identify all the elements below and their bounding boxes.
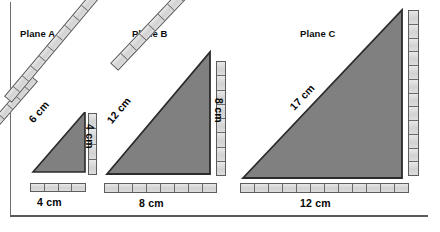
plane-a-height-label: 4 cm bbox=[84, 124, 96, 149]
frame-bottom-border bbox=[10, 215, 428, 217]
plane-c-height-ruler bbox=[408, 10, 419, 176]
plane-a-base-label: 4 cm bbox=[37, 196, 62, 208]
plane-c-triangle bbox=[240, 8, 406, 180]
plane-a-title: Plane A bbox=[20, 28, 55, 39]
plane-b-height-label: 8 cm bbox=[213, 98, 225, 123]
plane-b-base-ruler bbox=[104, 183, 217, 193]
plane-a-base-ruler bbox=[30, 183, 86, 192]
plane-b-hypotenuse-ruler-segments bbox=[4, 0, 115, 103]
plane-b-hypotenuse-ruler bbox=[4, 0, 115, 103]
plane-c-base-label: 12 cm bbox=[300, 197, 331, 209]
diagram-canvas: Plane A 6 cm 4 cm 4 cm Plane B bbox=[0, 0, 440, 232]
plane-a-triangle bbox=[31, 112, 87, 174]
plane-c-base-ruler bbox=[240, 183, 409, 193]
plane-b-base-label: 8 cm bbox=[139, 197, 164, 209]
